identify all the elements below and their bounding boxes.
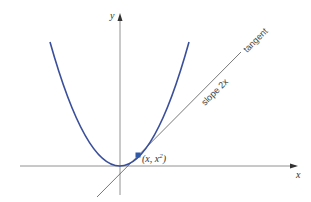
tangent-point-marker (136, 153, 141, 158)
point-label: (x, x2) (142, 152, 167, 165)
tangent-label: tangent (241, 26, 270, 55)
x-axis-label: x (295, 169, 301, 180)
y-axis-label: y (109, 10, 115, 21)
y-axis-arrow-icon (118, 13, 123, 21)
parabola-tangent-figure: x y (x, x2) slope 2x tangent (0, 0, 311, 202)
diagram-canvas: x y (x, x2) slope 2x tangent (0, 0, 311, 202)
slope-label: slope 2x (199, 76, 230, 107)
x-axis-arrow-icon (290, 164, 298, 169)
parabola-curve (50, 42, 189, 166)
tangent-line (97, 52, 241, 197)
